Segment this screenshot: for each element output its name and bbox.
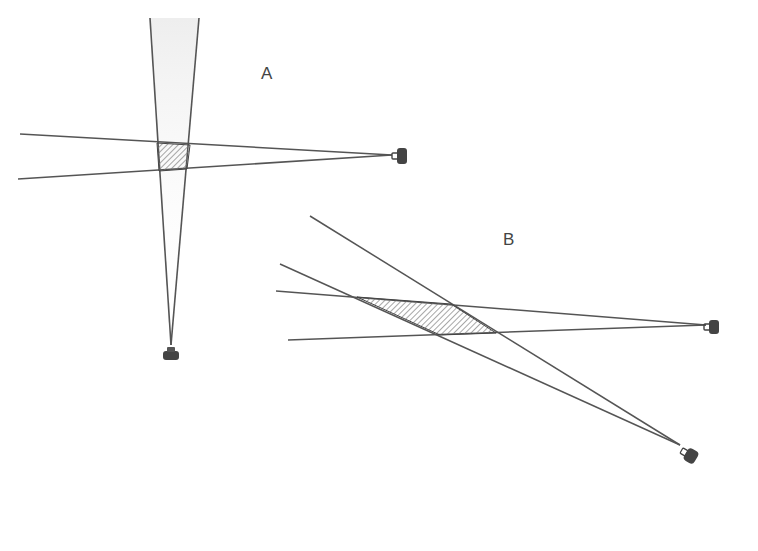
camera-icon bbox=[163, 347, 179, 360]
diagram-canvas: A B bbox=[0, 0, 758, 551]
view-ray bbox=[280, 264, 680, 445]
camera-icon bbox=[392, 148, 407, 164]
view-ray bbox=[18, 155, 392, 179]
view-ray bbox=[20, 134, 392, 155]
camera-icon bbox=[704, 320, 719, 334]
view-ray bbox=[276, 291, 706, 325]
camera-icon bbox=[678, 444, 700, 465]
panel-label-b: B bbox=[503, 230, 514, 250]
panel-label-a: A bbox=[261, 64, 272, 84]
diagram-svg bbox=[0, 0, 758, 551]
overlap-region-b bbox=[357, 297, 496, 335]
panel-b bbox=[276, 216, 719, 465]
view-ray bbox=[288, 325, 706, 340]
view-ray bbox=[310, 216, 680, 445]
panel-a bbox=[18, 18, 407, 360]
overlap-region-a bbox=[157, 143, 190, 171]
